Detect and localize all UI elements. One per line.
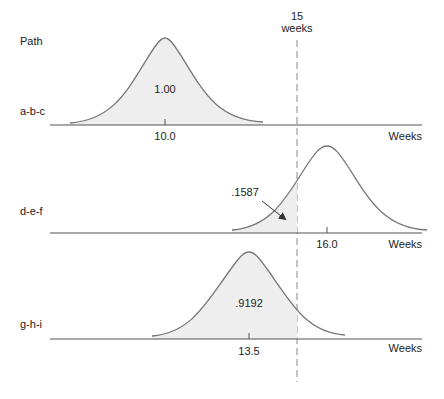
axis-unit-label: Weeks: [389, 130, 423, 142]
path-label: g-h-i: [20, 318, 42, 330]
threshold-label-value: 15: [291, 10, 303, 22]
panel-g-h-i: g-h-i .9192 13.5 Weeks: [20, 252, 422, 357]
path-header: Path: [20, 35, 43, 47]
shaded-tail-area: [232, 146, 427, 233]
axis-unit-label: Weeks: [389, 342, 423, 354]
mean-label: 13.5: [238, 345, 259, 357]
probability-label: .9192: [235, 297, 263, 309]
probability-chart: Path 15 weeks a-b-c 1.00 10.0 Weeks d-e-…: [0, 0, 444, 399]
panel-d-e-f: d-e-f .1587 16.0 Weeks: [20, 146, 427, 250]
threshold-label-unit: weeks: [280, 22, 313, 34]
probability-label: .1587: [231, 186, 259, 198]
probability-label: 1.00: [154, 83, 175, 95]
mean-label: 10.0: [154, 130, 175, 142]
path-label: a-b-c: [20, 105, 46, 117]
path-label: d-e-f: [20, 205, 44, 217]
normal-curve: [232, 146, 427, 230]
mean-label: 16.0: [316, 238, 337, 250]
panel-a-b-c: a-b-c 1.00 10.0 Weeks: [20, 38, 422, 142]
shaded-area: [70, 38, 263, 125]
axis-unit-label: Weeks: [389, 238, 423, 250]
